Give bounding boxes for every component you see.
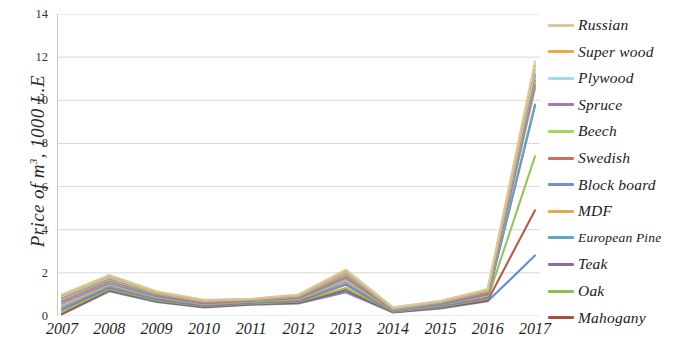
legend-label: Oak (578, 282, 604, 300)
legend-label: Super wood (578, 43, 654, 61)
legend-item-mahogany[interactable]: Mahogany (548, 307, 646, 329)
series-line-mdf (62, 88, 535, 310)
series-line-beech (62, 78, 535, 309)
legend-item-russian[interactable]: Russian (548, 14, 629, 36)
y-tick-4: 4 (18, 222, 48, 237)
x-tick-2012: 2012 (283, 320, 315, 338)
legend-swatch-icon (548, 290, 574, 293)
legend-swatch-icon (548, 77, 574, 80)
legend-label: Block board (578, 176, 656, 194)
legend-swatch-icon (548, 236, 574, 239)
legend-label: European Pine (578, 230, 661, 246)
x-tick-2015: 2015 (424, 320, 456, 338)
x-tick-2016: 2016 (472, 320, 504, 338)
legend-label: Swedish (578, 149, 630, 167)
x-tick-2007: 2007 (46, 320, 78, 338)
y-tick-12: 12 (18, 50, 48, 65)
legend-item-mdf[interactable]: MDF (548, 200, 612, 222)
legend-swatch-icon (548, 157, 574, 160)
y-tick-10: 10 (18, 93, 48, 108)
legend-item-european-pine[interactable]: European Pine (548, 227, 661, 249)
legend-item-plywood[interactable]: Plywood (548, 67, 634, 89)
series-line-block-board (62, 85, 535, 310)
chart-figure: Price of m3, 1000 L.E 14121086420 200720… (0, 0, 684, 345)
plot-area (57, 14, 540, 316)
legend-swatch-icon (548, 316, 574, 319)
x-tick-2017: 2017 (519, 320, 551, 338)
y-tick-2: 2 (18, 265, 48, 280)
x-tick-2014: 2014 (377, 320, 409, 338)
x-tick-2011: 2011 (236, 320, 267, 338)
legend-label: Plywood (578, 69, 634, 87)
y-tick-14: 14 (18, 7, 48, 22)
legend-swatch-icon (548, 263, 574, 266)
legend-item-block-board[interactable]: Block board (548, 174, 656, 196)
legend-item-teak[interactable]: Teak (548, 253, 608, 275)
legend-label: Spruce (578, 96, 622, 114)
series-line-spruce (62, 74, 535, 308)
series-line-teak (62, 106, 535, 312)
y-tick-8: 8 (18, 136, 48, 151)
series-line-russian (62, 61, 535, 307)
y-axis-tick-labels: 14121086420 (14, 0, 48, 345)
legend-item-swedish[interactable]: Swedish (548, 147, 630, 169)
legend-swatch-icon (548, 24, 574, 27)
chart-legend: RussianSuper woodPlywoodSpruceBeechSwedi… (548, 8, 684, 338)
legend-label: Beech (578, 122, 617, 140)
legend-label: Teak (578, 255, 608, 273)
legend-swatch-icon (548, 210, 574, 213)
legend-swatch-icon (548, 183, 574, 186)
legend-item-oak[interactable]: Oak (548, 280, 604, 302)
legend-swatch-icon (548, 103, 574, 106)
legend-item-super-wood[interactable]: Super wood (548, 41, 654, 63)
x-tick-2008: 2008 (93, 320, 125, 338)
legend-swatch-icon (548, 50, 574, 53)
legend-item-beech[interactable]: Beech (548, 120, 617, 142)
x-tick-2009: 2009 (141, 320, 173, 338)
legend-label: MDF (578, 202, 612, 220)
legend-label: Russian (578, 16, 629, 34)
x-tick-2013: 2013 (330, 320, 362, 338)
x-tick-2010: 2010 (188, 320, 220, 338)
series-line-european-pine (62, 105, 535, 311)
plot-svg (57, 14, 540, 316)
series-line-swedish (62, 81, 535, 310)
legend-item-spruce[interactable]: Spruce (548, 94, 622, 116)
legend-label: Mahogany (578, 309, 646, 327)
y-tick-6: 6 (18, 179, 48, 194)
legend-swatch-icon (548, 130, 574, 133)
